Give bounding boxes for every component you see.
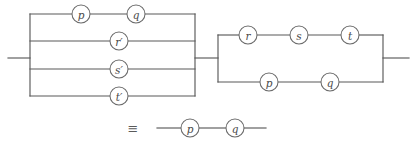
circuit-equivalence-figure: p q r′ s′ t′ — [0, 0, 417, 147]
equivalence-symbol: ≡ — [128, 121, 139, 136]
left-branch-t-prime: t′ — [30, 87, 195, 105]
right-parallel-network: r s t p q — [218, 26, 409, 91]
left-branch-pq: p q — [30, 5, 195, 23]
equivalence-row: ≡ p q — [128, 119, 266, 137]
left-branch-pq-element-q-label: q — [133, 9, 140, 21]
left-parallel-network: p q r′ s′ t′ — [8, 5, 218, 105]
left-branch-s-prime: s′ — [30, 60, 195, 78]
right-branch-pq-element-p-label: p — [266, 77, 273, 89]
result-series-network: p q — [157, 119, 266, 137]
left-branch-pq-element-p-label: p — [78, 9, 85, 21]
circuit-diagram-canvas: p q r′ s′ t′ — [0, 0, 417, 147]
left-branch-t-prime-element-label: t′ — [116, 91, 123, 103]
left-branch-r-prime-element-label: r′ — [115, 36, 123, 48]
right-branch-rst-element-s-label: s — [296, 30, 302, 42]
result-element-q-label: q — [232, 123, 239, 135]
right-branch-pq-element-q-label: q — [327, 77, 334, 89]
left-branch-s-prime-element-label: s′ — [115, 64, 123, 76]
right-branch-rst: r s t — [218, 26, 383, 44]
left-branch-r-prime: r′ — [30, 32, 195, 50]
result-element-p-label: p — [187, 123, 194, 135]
right-branch-pq: p q — [218, 73, 383, 91]
